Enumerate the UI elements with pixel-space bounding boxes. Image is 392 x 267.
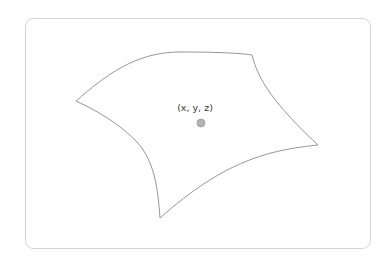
point-label: (x, y, z): [177, 102, 213, 113]
diagram-canvas: (x, y, z): [0, 0, 392, 267]
surface-point: [197, 119, 205, 127]
